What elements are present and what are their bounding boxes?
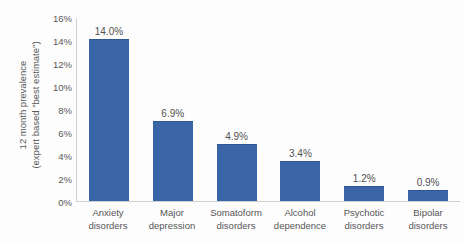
x-axis-category-label: Alcoholdependence [268, 206, 332, 232]
x-axis-category-label-line: disorders [204, 219, 268, 232]
bar-chart-figure: 12 month prevalence (expert based "best … [0, 0, 464, 244]
bar[interactable] [153, 121, 193, 201]
bar[interactable] [280, 161, 320, 201]
bar[interactable] [217, 144, 257, 201]
x-axis-category-label-line: Somatoform [204, 206, 268, 219]
bar-value-label: 1.2% [332, 173, 396, 184]
bar-slot: 3.4% [268, 18, 332, 201]
bar-value-label: 14.0% [77, 26, 141, 37]
bar-value-label: 3.4% [268, 148, 332, 159]
x-axis-category-labels: AnxietydisordersMajordepressionSomatofor… [76, 206, 460, 232]
x-axis-category-label-line: depression [140, 219, 204, 232]
x-axis-category-label-line: Alcohol [268, 206, 332, 219]
y-axis-tick-label: 0% [40, 197, 72, 208]
x-axis-category-label: Somatoformdisorders [204, 206, 268, 232]
bar-slot: 4.9% [205, 18, 269, 201]
y-axis-tick-label: 16% [40, 13, 72, 24]
bar-value-label: 0.9% [396, 177, 460, 188]
x-axis-category-label-line: Anxiety [76, 206, 140, 219]
y-axis-tick-label: 4% [40, 151, 72, 162]
y-axis-tick-label: 10% [40, 82, 72, 93]
x-axis-category-label: Bipolardisorders [396, 206, 460, 232]
x-axis-category-label-line: disorders [76, 219, 140, 232]
y-axis-tick-label: 12% [40, 59, 72, 70]
y-axis-tick-label: 14% [40, 36, 72, 47]
y-axis-tick-label: 2% [40, 174, 72, 185]
y-axis-tick-label: 8% [40, 105, 72, 116]
bar[interactable] [408, 190, 448, 201]
bars-layer: 14.0%6.9%4.9%3.4%1.2%0.9% [77, 18, 460, 201]
y-axis-tick-labels: 0%2%4%6%8%10%12%14%16% [40, 14, 72, 204]
bar-slot: 0.9% [396, 18, 460, 201]
x-axis-category-label-line: disorders [396, 219, 460, 232]
plot-area: 14.0%6.9%4.9%3.4%1.2%0.9% [76, 18, 460, 202]
bar-slot: 14.0% [77, 18, 141, 201]
x-axis-category-label-line: Major [140, 206, 204, 219]
x-axis-category-label: Anxietydisorders [76, 206, 140, 232]
bar-slot: 1.2% [332, 18, 396, 201]
bar-value-label: 4.9% [205, 131, 269, 142]
bar[interactable] [344, 186, 384, 201]
x-axis-category-label-line: dependence [268, 219, 332, 232]
x-axis-category-label-line: Bipolar [396, 206, 460, 219]
bar[interactable] [89, 39, 129, 201]
y-axis-title-line-1: 12 month prevalence [16, 10, 29, 200]
x-axis-category-label: Majordepression [140, 206, 204, 232]
x-axis-category-label-line: disorders [332, 219, 396, 232]
x-axis-category-label-line: Psychotic [332, 206, 396, 219]
x-axis-category-label: Psychoticdisorders [332, 206, 396, 232]
bar-value-label: 6.9% [141, 108, 205, 119]
y-axis-tick-label: 6% [40, 128, 72, 139]
bar-slot: 6.9% [141, 18, 205, 201]
